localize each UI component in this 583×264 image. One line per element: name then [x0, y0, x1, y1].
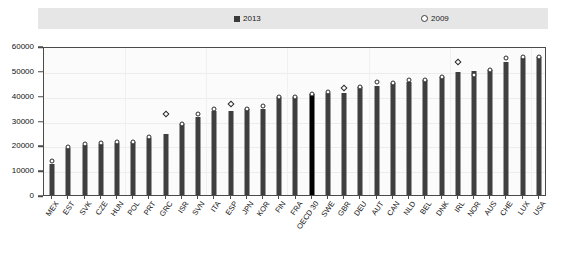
x-axis-tick-mark: [473, 196, 474, 199]
bar: [196, 117, 201, 195]
y-axis-tick-label: 50000: [12, 68, 34, 76]
bar-group: [60, 48, 76, 195]
x-axis-tick-label-text: EST: [62, 200, 77, 216]
data-point-marker: [261, 103, 266, 108]
bar: [82, 145, 87, 195]
x-axis-tick-label-text: NOR: [466, 200, 482, 218]
x-axis-tick-mark: [457, 196, 458, 199]
x-axis-tick-mark: [165, 196, 166, 199]
bar-group: [352, 48, 368, 195]
data-point-marker: [293, 94, 298, 99]
bar: [131, 142, 136, 195]
bar-group: [44, 48, 60, 195]
data-point-marker: [244, 107, 249, 112]
bar: [50, 164, 55, 195]
bar-group: [255, 48, 271, 195]
x-axis-tick-label-text: POL: [127, 200, 142, 217]
x-axis-tick-mark: [441, 196, 442, 199]
y-axis-tick-label: 20000: [12, 142, 34, 150]
bar-group: [385, 48, 401, 195]
y-axis-tick-label: 30000: [12, 118, 34, 126]
x-axis-tick-mark: [489, 196, 490, 199]
bar-group: [141, 48, 157, 195]
x-axis-tick-mark: [295, 196, 296, 199]
data-point-marker: [50, 159, 55, 164]
bar: [261, 109, 266, 195]
data-point-marker: [536, 55, 541, 60]
data-point-marker: [471, 72, 476, 77]
bar: [277, 97, 282, 195]
x-axis-tick-mark: [197, 196, 198, 199]
bar-group: [482, 48, 498, 195]
bar: [244, 109, 249, 195]
bar-group: [369, 48, 385, 195]
bar: [179, 124, 184, 195]
y-axis-tick-label: 40000: [12, 93, 34, 101]
x-axis-tick-label-text: NLD: [402, 200, 417, 217]
x-axis-tick-mark: [230, 196, 231, 199]
y-axis: 0100002000030000400005000060000: [0, 47, 40, 196]
bar-group: [336, 48, 352, 195]
bar: [98, 144, 103, 195]
filled-square-icon: [234, 16, 240, 22]
data-point-marker: [196, 112, 201, 117]
bar: [309, 94, 314, 195]
x-axis-tick-label-text: JPN: [241, 200, 255, 216]
bar-group: [271, 48, 287, 195]
bar-group: [76, 48, 92, 195]
bar: [163, 134, 168, 195]
data-point-marker: [115, 139, 120, 144]
bar: [488, 70, 493, 195]
x-axis-tick-mark: [376, 196, 377, 199]
x-axis-tick-label-text: USA: [532, 200, 547, 217]
x-axis-tick-mark: [100, 196, 101, 199]
bar-group: [174, 48, 190, 195]
data-point-marker: [277, 94, 282, 99]
x-axis-tick-mark: [538, 196, 539, 199]
bar-group: [190, 48, 206, 195]
x-axis-tick-label-text: ESP: [224, 200, 239, 217]
bar: [228, 111, 233, 195]
bar: [358, 87, 363, 195]
bar-group: [222, 48, 238, 195]
bar: [536, 57, 541, 195]
x-axis-tick-mark: [246, 196, 247, 199]
x-axis-tick-label-text: FIN: [274, 200, 287, 214]
bar-group: [515, 48, 531, 195]
bar: [439, 77, 444, 195]
x-axis-tick-label-text: LUX: [516, 200, 531, 216]
bar: [407, 82, 412, 195]
data-point-marker: [341, 85, 348, 92]
bar-group: [320, 48, 336, 195]
x-axis-tick-label-text: IRL: [453, 200, 466, 214]
bar: [471, 71, 476, 195]
x-axis-tick-label-text: ITA: [210, 200, 223, 213]
x-axis-tick-label-text: CHE: [499, 200, 514, 217]
legend-item-2009: 2009: [421, 8, 449, 29]
bar: [455, 72, 460, 195]
bar: [504, 62, 509, 195]
data-point-marker: [504, 56, 509, 61]
bar: [423, 80, 428, 195]
x-axis-tick-label-text: SVN: [191, 200, 206, 217]
x-axis-tick-label-text: GRC: [158, 200, 174, 218]
x-axis-tick-mark: [408, 196, 409, 199]
x-axis-tick-label-text: SWE: [320, 200, 336, 218]
data-point-marker: [439, 75, 444, 80]
open-circle-icon: [421, 15, 428, 22]
legend-label: 2013: [243, 15, 261, 23]
data-point-marker: [488, 67, 493, 72]
x-axis-tick-label-text: BEL: [419, 200, 433, 216]
x-axis-tick-label-text: CAN: [386, 200, 401, 217]
bar: [66, 148, 71, 195]
x-axis-tick-label-text: PRT: [143, 200, 158, 216]
x-axis-tick-mark: [84, 196, 85, 199]
bar-group: [158, 48, 174, 195]
data-point-marker: [374, 80, 379, 85]
x-axis-tick-label-text: AUS: [483, 200, 498, 217]
x-axis-tick-mark: [522, 196, 523, 199]
data-point-marker: [407, 77, 412, 82]
x-axis-tick-mark: [181, 196, 182, 199]
x-axis-tick-label-text: KOR: [256, 200, 271, 218]
x-axis-tick-label-text: DNK: [434, 200, 449, 217]
